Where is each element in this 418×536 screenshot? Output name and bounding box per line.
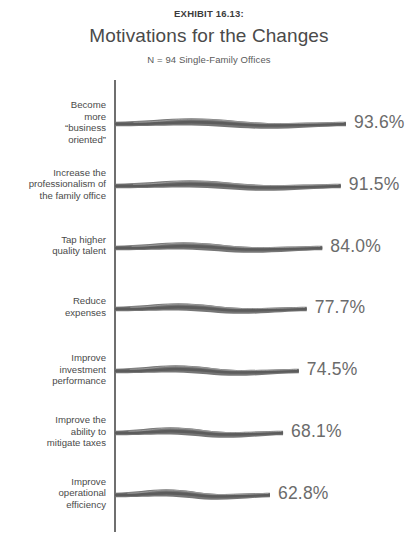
bar-shape [115,113,346,131]
category-label: Become more “business oriented” [0,99,106,145]
value-label: 91.5% [349,173,400,194]
value-label: 62.8% [278,482,329,503]
bar-shape [115,484,270,502]
bar-shape [115,175,341,193]
category-label: Improve the ability to mitigate taxes [0,414,106,449]
category-label: Reduce expenses [0,296,106,319]
bar-row: Tap higher quality talent84.0% [0,218,418,274]
value-label: 93.6% [354,112,405,133]
bar-shape [115,422,283,440]
value-label: 74.5% [307,359,358,380]
bar-row: Improve operational efficiency62.8% [0,465,418,521]
bar-row: Improve the ability to mitigate taxes68.… [0,403,418,459]
category-label: Tap higher quality talent [0,234,106,257]
bar-shape [115,360,299,378]
category-label: Improve operational efficiency [0,475,106,510]
bar-shape [115,298,307,316]
category-label: Increase the professionalism of the fami… [0,166,106,201]
plot-area: Become more “business oriented”93.6%Incr… [0,0,418,536]
bar-row: Become more “business oriented”93.6% [0,94,418,150]
value-label: 68.1% [291,421,342,442]
bar-shape [115,237,322,255]
value-label: 77.7% [315,297,366,318]
bar-row: Reduce expenses77.7% [0,279,418,335]
category-label: Improve investment performance [0,352,106,387]
bar-row: Improve investment performance74.5% [0,341,418,397]
value-label: 84.0% [330,235,381,256]
bar-row: Increase the professionalism of the fami… [0,156,418,212]
